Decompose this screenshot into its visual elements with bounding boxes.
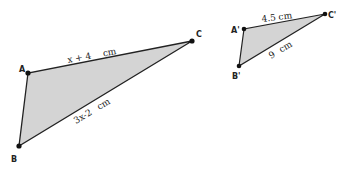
vertex-a-dot: [25, 70, 30, 75]
vertex-b-dot: [16, 143, 21, 148]
vertex-a-prime-dot: [242, 27, 247, 32]
vertex-b-label: B: [11, 155, 17, 164]
triangle-a-prime-b-prime-c-prime: [239, 14, 325, 66]
side-a-prime-c-prime-value: 4.5: [261, 12, 277, 24]
vertex-c-prime-label: C': [328, 11, 336, 20]
vertex-b-prime-dot: [237, 64, 242, 69]
vertex-c-prime-dot: [323, 12, 328, 17]
side-a-prime-c-prime-unit: cm: [278, 10, 293, 22]
vertex-a-label: A: [19, 65, 26, 74]
vertex-a-prime-label: A': [231, 26, 240, 35]
side-b-prime-c-prime-value: 9: [267, 49, 277, 61]
vertex-c-label: C: [196, 30, 202, 39]
vertex-c-dot: [189, 38, 194, 43]
similar-triangles-diagram: A B C x + 4 cm 3x-2 cm A' B' C' 4.5 cm 9…: [0, 0, 345, 173]
vertex-b-prime-label: B': [232, 72, 241, 81]
